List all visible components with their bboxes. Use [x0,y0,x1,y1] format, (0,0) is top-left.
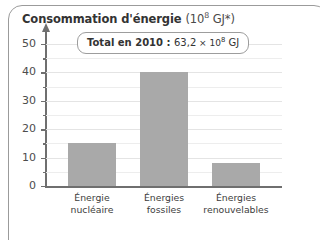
category-label: Énergiesfossiles [124,192,204,215]
bar [212,163,260,186]
annotation-unit: GJ [225,37,239,48]
y-axis-tick-major [41,72,46,73]
y-axis-tick-major [41,186,46,187]
bar [140,72,188,186]
x-axis-line [45,186,282,188]
category-label: Énergienucléaire [52,192,132,215]
annotation-times: × 10 [196,38,221,48]
y-axis-tick-minor [43,87,47,88]
category-label: Énergiesrenouvelables [196,192,276,215]
category-label-line: renouvelables [196,204,276,216]
y-axis-tick-label: 40 [10,65,36,78]
y-axis-tick-label: 30 [10,94,36,107]
y-axis-tick-minor [43,172,47,173]
y-axis-tick-major [41,129,46,130]
chart-title: Consommation d'énergie (108 GJ*) [22,12,235,26]
y-axis-tick-minor [43,143,47,144]
category-label-line: fossiles [124,204,204,216]
category-label-line: Énergies [196,192,276,204]
annotation-value: 63,2 [174,37,196,48]
category-label-line: Énergie [52,192,132,204]
category-label-line: Énergies [124,192,204,204]
y-axis-tick-label: 50 [10,37,36,50]
chart-title-unit: (108 GJ*) [185,12,234,26]
y-axis-tick-major [41,101,46,102]
category-label-line: nucléaire [52,204,132,216]
gridline [46,58,282,59]
y-axis-tick-label: 0 [10,179,36,192]
y-axis-tick-major [41,158,46,159]
y-axis-tick-label: 20 [10,122,36,135]
y-axis-tick-minor [43,115,47,116]
y-axis-tick-major [41,44,46,45]
y-axis-tick-minor [43,58,47,59]
unit-suffix: GJ*) [209,12,235,26]
annotation-lead: Total en 2010 : [87,37,174,48]
bar [68,143,116,186]
y-axis-tick-label: 10 [10,151,36,164]
unit-prefix: (10 [185,12,204,26]
total-annotation-box: Total en 2010 : 63,2 × 108 GJ [77,32,249,54]
